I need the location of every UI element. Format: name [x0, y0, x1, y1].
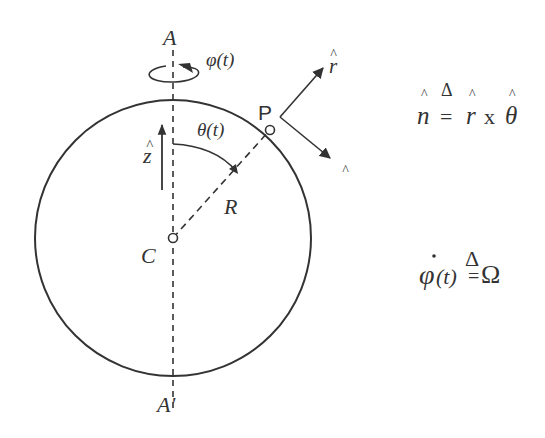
sphere-diagram: A A' φ(t) ^ z θ(t) R C P ^ r ^ ^ n Δ = ^…: [0, 0, 545, 438]
axis-top-label: A: [161, 25, 177, 50]
center-point: [169, 234, 178, 243]
radius-label: R: [223, 194, 238, 219]
z-axis-label: z: [142, 143, 152, 168]
polar-angle-arc: [173, 144, 236, 171]
polar-angle-label: θ(t): [197, 119, 224, 141]
r-symbol: r: [466, 102, 476, 129]
theta-hat-caret: ^: [342, 163, 349, 178]
def-equals: =: [468, 265, 479, 287]
normal-vector-equation: ^ n Δ = ^ r x ^ θ: [417, 80, 517, 129]
center-label: C: [141, 243, 156, 268]
cross-symbol: x: [484, 104, 495, 129]
angular-rate-equation: φ (t) Δ = Ω: [419, 246, 500, 290]
def-equals: =: [440, 104, 452, 129]
r-hat-vector: [280, 68, 323, 117]
delta-symbol: Δ: [441, 80, 453, 100]
n-symbol: n: [417, 102, 430, 129]
n-hat-caret: ^: [421, 87, 428, 102]
time-derivative-dot: [432, 254, 436, 258]
theta-hat-eq-caret: ^: [509, 87, 516, 102]
theta-symbol: θ: [505, 102, 517, 129]
rotation-angle-label: φ(t): [206, 49, 234, 71]
circular-arrow-icon: [149, 63, 198, 82]
surface-point-label: P: [258, 101, 272, 124]
omega-symbol: Ω: [481, 260, 500, 289]
phi-symbol: φ: [419, 259, 435, 290]
r-hat-label: r: [329, 54, 338, 78]
theta-hat-vector: [280, 117, 330, 158]
radius-line: [173, 131, 269, 238]
surface-point: [266, 126, 275, 135]
r-hat-eq-caret: ^: [469, 87, 476, 102]
phi-argument: (t): [436, 264, 457, 289]
axis-bottom-label: A': [155, 392, 175, 417]
